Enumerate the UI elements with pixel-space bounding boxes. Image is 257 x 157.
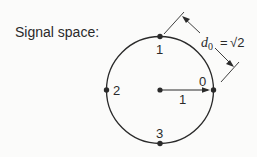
point-2-label: 2: [113, 83, 120, 98]
distance-label: d0 = √2: [201, 35, 244, 52]
point-2-dot: [104, 87, 109, 92]
point-3-dot: [157, 141, 162, 146]
extension-line-top: [164, 12, 184, 34]
point-0-label: 0: [199, 74, 206, 89]
constellation-svg: 1 0 1 2 3 d0 = √2: [0, 0, 257, 157]
point-1-label: 1: [156, 42, 163, 57]
point-1-dot: [157, 34, 162, 39]
signal-space-diagram: Signal space: 1 0 1 2 3 d0 = √2: [0, 0, 257, 157]
svg-text:√2: √2: [230, 35, 244, 50]
svg-text:d0: d0: [201, 35, 213, 52]
svg-text:=: =: [220, 35, 228, 50]
point-3-label: 3: [156, 126, 163, 141]
point-0-dot: [211, 87, 216, 92]
radius-label: 1: [179, 92, 186, 107]
dimension-arrow-lower-icon: [226, 60, 234, 67]
